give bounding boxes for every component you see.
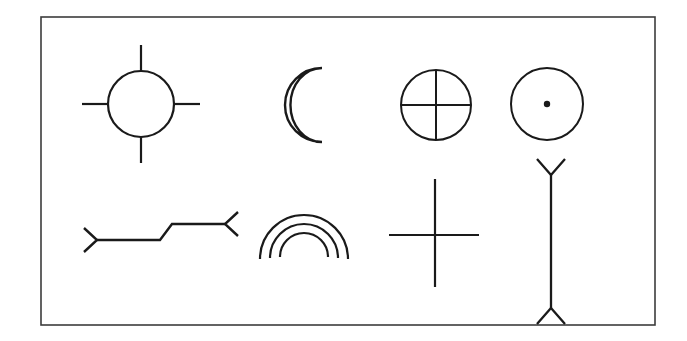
figure-plate: [0, 0, 687, 341]
sun-center-dot: [544, 101, 550, 107]
plate-frame-border: [41, 17, 655, 325]
symbol-plate-svg: [0, 0, 687, 341]
symbol-quartered-circle: [401, 70, 471, 140]
